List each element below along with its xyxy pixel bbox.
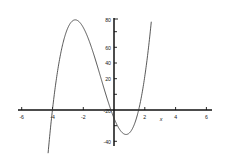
y-tick-label: 20 (105, 76, 111, 82)
chart-container: -6 -4 -2 2 4 6 x -40 -20 20 40 60 80 (0, 0, 227, 158)
x-tick-label: 4 (174, 114, 177, 120)
x-tick-label: 6 (205, 114, 208, 120)
y-tick-label: 60 (105, 45, 111, 51)
cubic-curve (48, 20, 151, 153)
x-tick-label: 2 (143, 114, 146, 120)
y-tick-label: 40 (105, 60, 111, 66)
cubic-function-plot: -6 -4 -2 2 4 6 x -40 -20 20 40 60 80 (0, 0, 227, 158)
y-tick-label: 80 (105, 17, 111, 23)
x-tick-label: -4 (50, 114, 55, 120)
x-tick-label: -2 (81, 114, 86, 120)
y-tick-label: -40 (104, 139, 112, 145)
x-axis-label: x (159, 116, 163, 122)
x-tick-label: -6 (19, 114, 24, 120)
y-axis-tick-labels: -40 -20 20 40 60 80 (104, 17, 112, 145)
